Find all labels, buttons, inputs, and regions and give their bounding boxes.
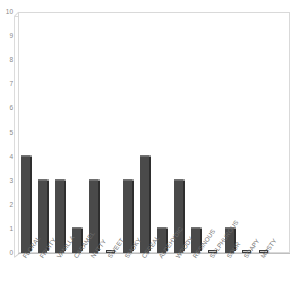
- bar-top-bevel: [200, 227, 203, 230]
- bar-top-bevel: [98, 179, 101, 182]
- x-axis: FLORALFRUITYVANILLACARAMELNUTTYSWEETSMOK…: [18, 254, 298, 306]
- y-axis-tick-label: 1: [9, 226, 13, 233]
- bar-top-bevel: [149, 155, 152, 158]
- y-axis-tick-label: 4: [9, 153, 13, 160]
- bars-layer: [18, 12, 290, 253]
- y-axis-tick-label: 7: [9, 81, 13, 88]
- y-axis-tick-label: 9: [9, 33, 13, 40]
- bar-top-bevel: [47, 179, 50, 182]
- bar-top-bevel: [81, 227, 84, 230]
- y-axis-tick-label: 3: [9, 177, 13, 184]
- bar-top-bevel: [30, 155, 33, 158]
- bar-body: [140, 157, 151, 253]
- y-axis: 109876543210: [0, 12, 18, 253]
- bar-chart: 109876543210 FLORALFRUITYVANILLACARAMELN…: [0, 0, 298, 306]
- bar-body: [21, 157, 32, 253]
- bar-front-face: [21, 157, 30, 253]
- y-axis-tick-label: 10: [6, 9, 13, 16]
- bar-top-bevel: [166, 227, 169, 230]
- y-axis-tick-label: 2: [9, 202, 13, 209]
- bar-front-face: [140, 157, 149, 253]
- y-axis-tick-label: 5: [9, 129, 13, 136]
- y-axis-tick-label: 0: [9, 250, 13, 257]
- bar-top-bevel: [64, 179, 67, 182]
- y-axis-tick-label: 6: [9, 105, 13, 112]
- y-axis-tick-label: 8: [9, 57, 13, 64]
- bar-top-bevel: [132, 179, 135, 182]
- bar-top-bevel: [183, 179, 186, 182]
